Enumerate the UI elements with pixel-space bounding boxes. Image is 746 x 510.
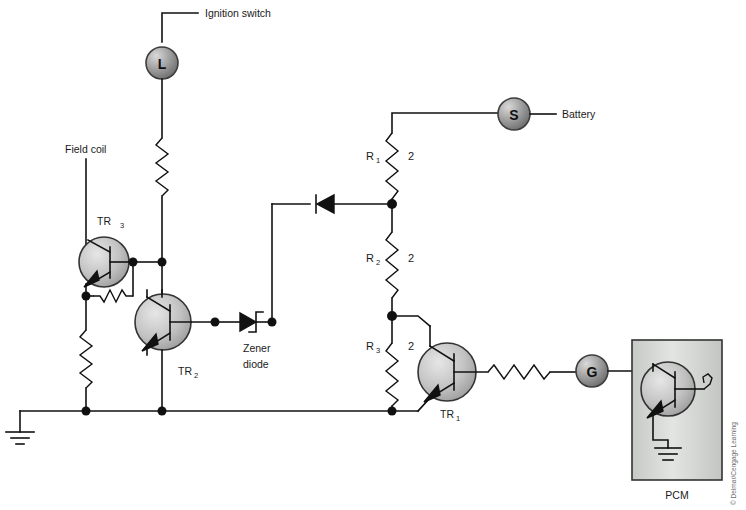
R1-value: 2 — [408, 150, 414, 162]
R3-label-sub: 3 — [376, 346, 380, 355]
field-coil-label: Field coil — [65, 143, 106, 155]
ignition-switch-label: Ignition switch — [205, 7, 271, 19]
R1-label-sub: 1 — [376, 156, 380, 165]
terminal-G-label: G — [587, 364, 598, 380]
TR1-label: TR — [440, 408, 454, 420]
pcm-module: PCM — [632, 340, 722, 501]
TR3-label: TR — [97, 215, 111, 227]
TR1-label-sub: 1 — [456, 414, 460, 423]
circuit-diagram: Ignition switch L Field coil TR 3 — [0, 0, 746, 510]
zener-label-line2: diode — [243, 358, 269, 370]
copyright-text: © Delmar/Cengage Learning — [730, 422, 738, 505]
terminal-L-label: L — [158, 56, 167, 72]
terminal-L[interactable]: L — [146, 47, 178, 79]
R2-label-sub: 2 — [376, 258, 380, 267]
TR2-label-sub: 2 — [194, 371, 198, 380]
TR3-label-sub: 3 — [120, 221, 124, 230]
R2-label: R — [366, 252, 374, 264]
copyright-block: © Delmar/Cengage Learning — [730, 422, 738, 505]
R1-label: R — [366, 150, 374, 162]
R3-label: R — [366, 340, 374, 352]
circuit-svg: Ignition switch L Field coil TR 3 — [0, 0, 746, 510]
zener-label-line1: Zener — [243, 342, 271, 354]
battery-label: Battery — [562, 108, 596, 120]
pcm-label: PCM — [665, 489, 688, 501]
TR2-label: TR — [178, 365, 192, 377]
terminal-S-label: S — [509, 107, 518, 123]
R3-value: 2 — [408, 340, 414, 352]
R2-value: 2 — [408, 252, 414, 264]
